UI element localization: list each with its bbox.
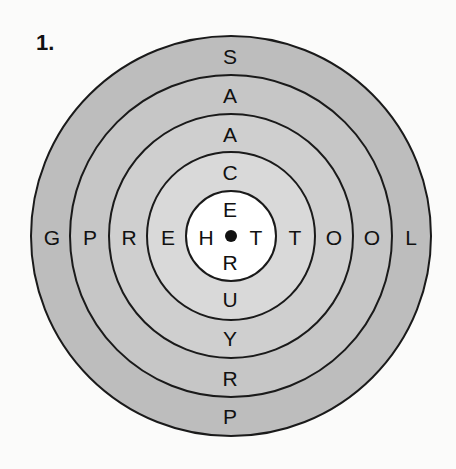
target-word-diagram: G P R E H T T O O L S A A C E R U Y R P (0, 0, 456, 469)
letter-v9: P (223, 405, 237, 428)
letter-h9: L (405, 226, 417, 249)
letter-h1: P (83, 226, 97, 249)
letter-v8: R (222, 367, 237, 390)
letter-v4: E (223, 198, 237, 221)
letter-v0: S (223, 45, 237, 68)
letter-h6: T (289, 226, 302, 249)
letter-h3: E (161, 226, 175, 249)
letter-h4: H (198, 226, 213, 249)
letter-v1: A (223, 84, 237, 107)
letter-h5: T (250, 226, 263, 249)
letter-v2: A (223, 123, 237, 146)
letter-h2: R (121, 226, 136, 249)
letter-h8: O (364, 226, 380, 249)
letter-h0: G (44, 226, 60, 249)
letter-v3: C (222, 161, 237, 184)
letter-v7: Y (223, 327, 237, 350)
letter-h7: O (326, 226, 342, 249)
center-dot (225, 230, 237, 242)
letter-v5: R (222, 251, 237, 274)
letter-v6: U (222, 288, 237, 311)
